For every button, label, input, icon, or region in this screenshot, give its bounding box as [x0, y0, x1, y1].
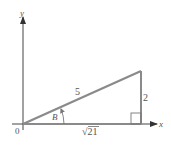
angle-arc-icon — [61, 109, 64, 124]
hypotenuse — [23, 71, 141, 124]
opposite-label: 2 — [143, 92, 148, 103]
hypotenuse-label: 5 — [75, 86, 80, 97]
right-angle-marker — [131, 113, 141, 124]
origin-label: 0 — [15, 126, 20, 136]
x-axis-label: x — [158, 119, 163, 129]
angle-label: B — [52, 112, 58, 122]
adjacent-label: √21 — [82, 126, 98, 137]
triangle-diagram: y x 0 5 2 √21 B — [0, 0, 171, 146]
y-axis-label: y — [19, 8, 24, 18]
